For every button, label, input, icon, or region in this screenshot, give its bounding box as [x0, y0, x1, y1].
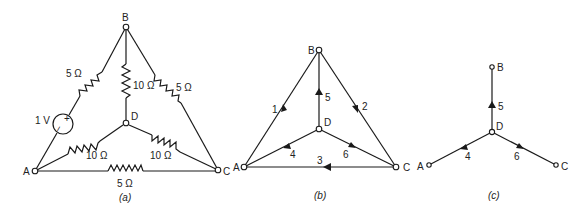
node-d — [123, 120, 129, 126]
node-b-label: B — [122, 12, 129, 23]
node-a-label: A — [417, 161, 424, 172]
arrow-6-icon — [516, 143, 524, 149]
node-d-label: D — [324, 117, 331, 128]
branch-4-label: 4 — [465, 151, 471, 162]
wire-r3-d — [100, 125, 123, 141]
voltage-source-icon: + − — [52, 113, 73, 134]
branch-4 — [244, 129, 319, 167]
node-a — [32, 168, 38, 174]
branch-1-label: 1 — [272, 104, 278, 115]
branch-5-label: 5 — [498, 101, 504, 112]
resistor-bc-label: 5 Ω — [176, 82, 192, 93]
node-b-label: B — [497, 62, 504, 73]
node-a — [427, 163, 431, 167]
node-d — [316, 126, 322, 132]
resistor-bd-label: 10 Ω — [133, 80, 155, 91]
branch-1 — [244, 50, 319, 167]
branch-5-label: 5 — [325, 92, 331, 103]
node-d-label: D — [496, 121, 503, 132]
branch-6 — [492, 132, 556, 165]
arrow-6-icon — [348, 142, 356, 148]
node-b — [316, 47, 322, 53]
node-d-label: D — [131, 111, 138, 122]
caption-b: (b) — [314, 190, 326, 201]
wire-r4-c — [180, 152, 218, 170]
branch-4 — [429, 132, 492, 165]
arrow-2-icon — [352, 105, 358, 113]
wire-b-r2 — [126, 27, 155, 75]
wire-source-r1 — [69, 96, 80, 115]
wire-d-r4 — [129, 125, 152, 135]
caption-c: (c) — [488, 190, 500, 201]
resistor-ac-icon — [108, 165, 143, 171]
node-b — [123, 24, 129, 30]
wire-r1-b — [102, 27, 126, 72]
figure-c-tree: 5 4 6 A B C D (c) — [417, 62, 568, 201]
branch-6-label: 6 — [514, 151, 520, 162]
branch-4-label: 4 — [290, 149, 296, 160]
svg-text:−: − — [52, 123, 65, 134]
resistor-ab-icon — [79, 72, 102, 96]
arrow-5-icon — [488, 101, 496, 108]
arrow-3-icon — [323, 163, 331, 171]
arrow-5-icon — [315, 88, 323, 95]
node-a-label: A — [233, 162, 240, 173]
resistor-ab-label: 5 Ω — [66, 68, 82, 79]
figure-b-graph: 1 2 3 4 5 6 A B C D (b) — [233, 45, 410, 201]
node-c — [215, 167, 221, 173]
figure-a-circuit: + − 5 Ω 1 V 10 Ω 5 Ω 10 Ω 10 Ω 5 Ω — [23, 12, 230, 203]
circuit-figure: + − 5 Ω 1 V 10 Ω 5 Ω 10 Ω 10 Ω 5 Ω — [0, 0, 588, 213]
caption-a: (a) — [119, 192, 131, 203]
node-a-label: A — [23, 166, 30, 177]
node-c — [554, 163, 558, 167]
resistor-ac-label: 5 Ω — [117, 178, 133, 189]
node-c-label: C — [403, 162, 410, 173]
resistor-dc-label: 10 Ω — [150, 150, 172, 161]
resistor-ad-label: 10 Ω — [86, 150, 108, 161]
resistor-bd-icon — [122, 64, 130, 98]
node-b — [490, 65, 494, 69]
node-c-label: C — [223, 166, 230, 177]
node-a — [241, 164, 247, 170]
node-d — [489, 129, 494, 134]
wire-r2-c — [181, 103, 218, 170]
node-c-label: C — [561, 161, 568, 172]
branch-3-label: 3 — [317, 155, 323, 166]
branch-6 — [319, 129, 396, 167]
node-b-label: B — [308, 45, 315, 56]
branch-2-label: 2 — [362, 101, 368, 112]
branch-6-label: 6 — [343, 149, 349, 160]
source-label: 1 V — [35, 115, 50, 126]
node-c — [393, 164, 399, 170]
